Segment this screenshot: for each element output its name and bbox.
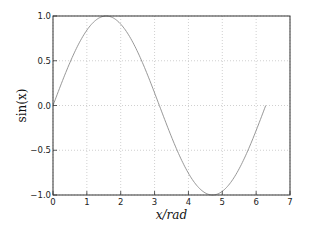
y-axis-label: sin(x) — [15, 89, 29, 123]
x-tick-label: 6 — [253, 197, 258, 207]
y-tick-label: 0.5 — [37, 56, 51, 66]
x-tick-label: 5 — [220, 197, 225, 207]
x-tick-label: 1 — [84, 197, 89, 207]
x-tick-label: 3 — [152, 197, 157, 207]
x-tick-label: 7 — [287, 197, 292, 207]
x-axis-label: x/rad — [156, 208, 188, 222]
x-tick-label: 0 — [50, 197, 55, 207]
x-tick-label: 4 — [186, 197, 191, 207]
x-axis-ticks: 01234567 — [50, 191, 292, 207]
y-tick-label: 1.0 — [37, 11, 51, 21]
x-tick-label: 2 — [118, 197, 123, 207]
y-tick-label: −0.5 — [30, 145, 51, 155]
y-tick-label: 0.0 — [37, 101, 51, 111]
y-tick-label: −1.0 — [30, 190, 51, 200]
sine-chart: 01234567 −1.0−0.50.00.51.0 x/rad sin(x) — [0, 0, 309, 232]
grid-lines — [53, 16, 290, 195]
